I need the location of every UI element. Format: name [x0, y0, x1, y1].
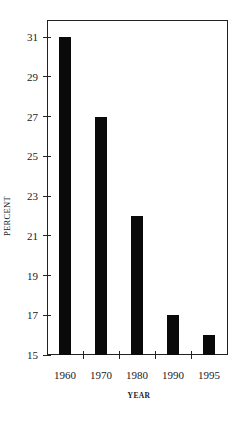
bar-1960: [59, 37, 71, 355]
y-tick-label: 21: [8, 230, 38, 242]
y-tick: [43, 76, 51, 77]
bar-1970: [95, 117, 107, 356]
y-tick-label: 17: [8, 309, 38, 321]
y-tick-label: 23: [8, 190, 38, 202]
bar-1995: [203, 335, 215, 355]
y-tick: [43, 315, 51, 316]
x-tick-label: 1990: [155, 369, 191, 381]
y-tick-label: 29: [8, 71, 38, 83]
y-axis-title: PERCENT: [2, 196, 12, 236]
y-tick: [43, 275, 51, 276]
bar-chart: 151719212325272931 19601970198019901995 …: [0, 0, 245, 428]
x-tick-label: 1960: [47, 369, 83, 381]
y-tick-label: 15: [8, 349, 38, 361]
y-tick: [43, 235, 51, 236]
y-tick: [43, 156, 51, 157]
x-tick: [191, 351, 192, 359]
y-tick-label: 25: [8, 150, 38, 162]
bar-1990: [167, 315, 179, 355]
x-tick-label: 1995: [191, 369, 227, 381]
x-tick-label: 1980: [119, 369, 155, 381]
x-tick: [119, 351, 120, 359]
x-tick: [155, 351, 156, 359]
x-tick: [83, 351, 84, 359]
y-tick: [43, 196, 51, 197]
y-tick-label: 27: [8, 111, 38, 123]
x-axis-title: YEAR: [128, 391, 151, 400]
y-tick: [43, 355, 51, 356]
y-tick-label: 31: [8, 31, 38, 43]
y-tick: [43, 116, 51, 117]
y-tick: [43, 37, 51, 38]
bar-1980: [131, 216, 143, 355]
x-tick-label: 1970: [83, 369, 119, 381]
y-tick-label: 19: [8, 270, 38, 282]
